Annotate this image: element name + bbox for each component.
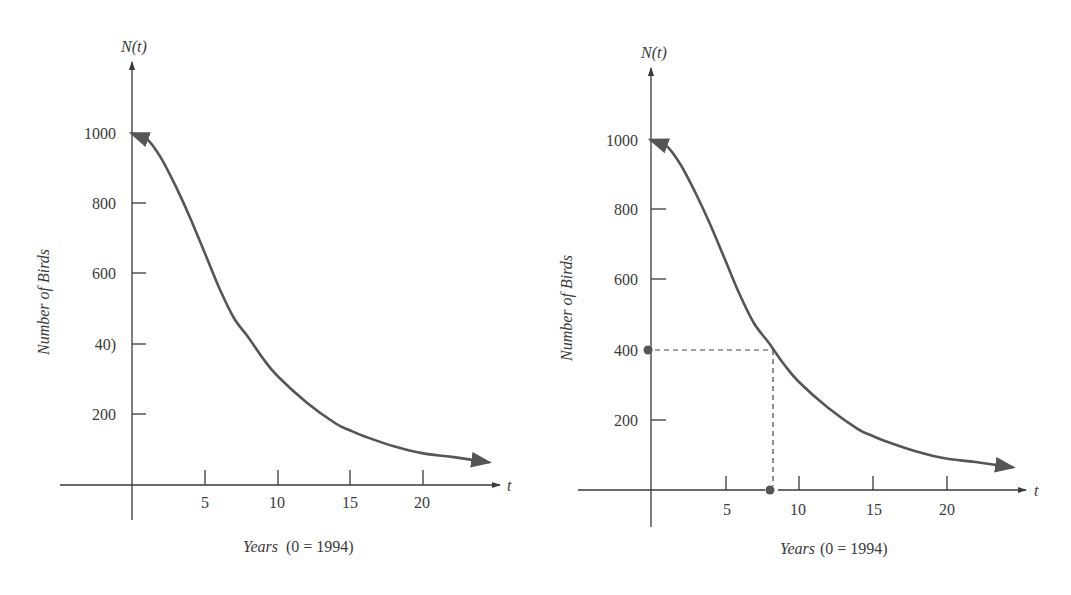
right-x-axis-title: Years bbox=[780, 540, 815, 557]
left-x-axis-subtitle: (0 = 1994) bbox=[286, 538, 354, 556]
right-x-axis-subtitle: (0 = 1994) bbox=[820, 540, 888, 558]
right-y-axis-title: Number of Birds bbox=[558, 255, 576, 362]
left-y-tick-200: 200 bbox=[92, 406, 116, 423]
right-y-tick-1000: 1000 bbox=[606, 132, 638, 149]
right-x-tick-5: 5 bbox=[723, 501, 731, 518]
left-x-ticks bbox=[205, 470, 423, 485]
left-x-axis-title: Years bbox=[243, 538, 278, 555]
right-y-tick-200: 200 bbox=[614, 412, 638, 429]
left-y-axis-title: Number of Birds bbox=[35, 249, 53, 356]
left-y-variable-label: N(t) bbox=[120, 38, 147, 56]
right-x-variable-label: t bbox=[1034, 482, 1039, 499]
right-x-axis-marker-t bbox=[766, 486, 775, 495]
figure: 200 40) 600 800 1000 5 10 15 20 N(t) t N… bbox=[0, 0, 1071, 595]
left-x-tick-20: 20 bbox=[414, 494, 430, 511]
left-chart: 200 40) 600 800 1000 5 10 15 20 N(t) t N… bbox=[35, 38, 512, 556]
right-y-axis-marker-400 bbox=[644, 346, 653, 355]
right-x-tick-15: 15 bbox=[866, 501, 882, 518]
left-x-tick-10: 10 bbox=[269, 494, 285, 511]
right-x-tick-10: 10 bbox=[790, 501, 806, 518]
right-x-tick-20: 20 bbox=[939, 501, 955, 518]
right-curve bbox=[651, 140, 1012, 467]
left-y-tick-1000: 1000 bbox=[84, 125, 116, 142]
right-y-variable-label: N(t) bbox=[640, 44, 667, 62]
left-y-ticks bbox=[132, 203, 146, 414]
left-x-tick-5: 5 bbox=[201, 494, 209, 511]
right-x-ticks bbox=[726, 476, 947, 490]
left-y-tick-800: 800 bbox=[92, 195, 116, 212]
left-x-variable-label: t bbox=[507, 477, 512, 494]
left-y-tick-600: 600 bbox=[92, 265, 116, 282]
left-y-tick-400: 40) bbox=[95, 336, 116, 354]
right-chart: 200 400 600 800 1000 5 10 15 20 N(t) t N… bbox=[558, 44, 1039, 558]
right-y-tick-400: 400 bbox=[614, 342, 638, 359]
right-y-tick-800: 800 bbox=[614, 201, 638, 218]
left-x-tick-15: 15 bbox=[342, 494, 358, 511]
figure-canvas: 200 40) 600 800 1000 5 10 15 20 N(t) t N… bbox=[0, 0, 1071, 595]
right-y-ticks bbox=[651, 209, 666, 420]
left-curve bbox=[132, 134, 489, 463]
right-y-tick-600: 600 bbox=[614, 271, 638, 288]
